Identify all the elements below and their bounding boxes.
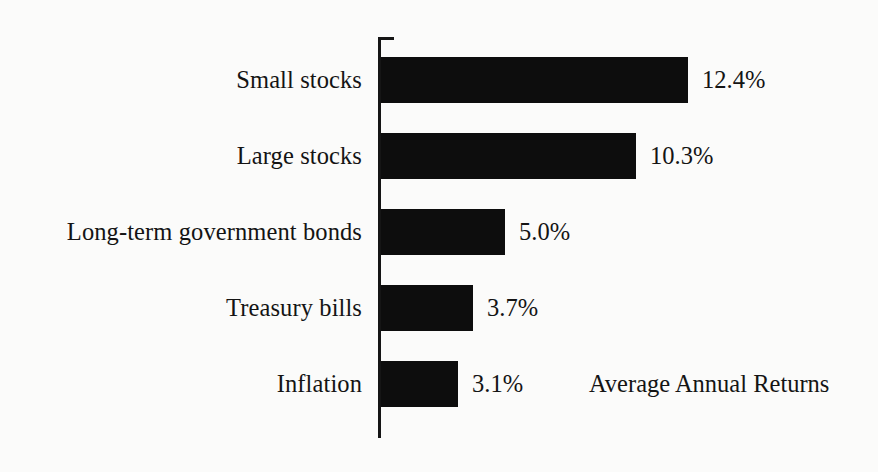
bar-row: Treasury bills 3.7% xyxy=(0,285,878,331)
value-label: 3.7% xyxy=(487,285,538,331)
bar-treasury-bills xyxy=(381,285,473,331)
category-label: Inflation xyxy=(277,361,362,407)
value-label: 5.0% xyxy=(519,209,570,255)
bar-row: Small stocks 12.4% xyxy=(0,57,878,103)
category-label: Large stocks xyxy=(237,133,362,179)
value-label: 10.3% xyxy=(650,133,713,179)
category-label: Small stocks xyxy=(236,57,362,103)
bar-row: Long-term government bonds 5.0% xyxy=(0,209,878,255)
chart-annotation-average-annual-returns: Average Annual Returns xyxy=(589,361,829,407)
value-label: 3.1% xyxy=(472,361,523,407)
category-label: Long-term government bonds xyxy=(67,209,362,255)
bars-layer: Small stocks 12.4% Large stocks 10.3% Lo… xyxy=(0,0,878,472)
bar-row: Inflation 3.1% Average Annual Returns xyxy=(0,361,878,407)
bar-row: Large stocks 10.3% xyxy=(0,133,878,179)
bar-small-stocks xyxy=(381,57,688,103)
category-label: Treasury bills xyxy=(226,285,362,331)
bar-inflation xyxy=(381,361,458,407)
bar-large-stocks xyxy=(381,133,636,179)
bar-long-term-government-bonds xyxy=(381,209,505,255)
bar-chart-figure: Small stocks 12.4% Large stocks 10.3% Lo… xyxy=(0,0,878,472)
value-label: 12.4% xyxy=(702,57,765,103)
